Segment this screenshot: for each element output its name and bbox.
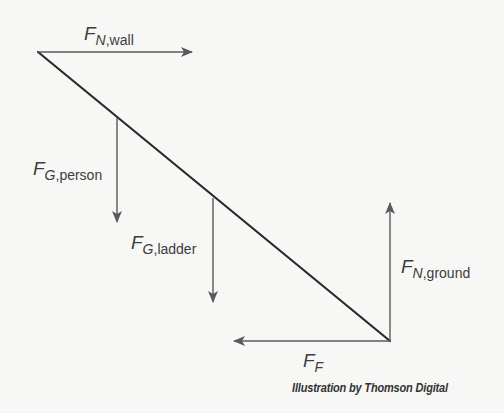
force-symbol: F [84,23,96,44]
force-subscript: N [96,32,106,48]
label-normal-force-ground: FN,ground [401,257,470,276]
force-qualifier: ,wall [106,32,134,48]
label-friction-force: FF [303,351,323,370]
free-body-diagram [0,0,504,413]
label-normal-force-wall: FN,wall [84,24,134,43]
illustration-credit: Illustration by Thomson Digital [292,381,448,395]
force-qualifier: ,person [56,167,103,183]
force-subscript: F [315,359,324,375]
force-symbol: F [303,350,315,371]
force-subscript: N [413,265,423,281]
ladder-line [38,52,390,341]
force-symbol: F [33,158,45,179]
force-subscript: G [45,167,56,183]
force-qualifier: ,ladder [154,241,197,257]
label-gravity-person: FG,person [33,159,102,178]
force-qualifier: ,ground [423,265,470,281]
force-symbol: F [131,232,143,253]
force-subscript: G [143,241,154,257]
label-gravity-ladder: FG,ladder [131,233,196,252]
force-symbol: F [401,256,413,277]
